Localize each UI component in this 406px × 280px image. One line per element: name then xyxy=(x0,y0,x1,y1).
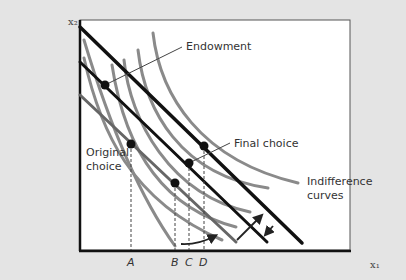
original-choice-label-line2: choice xyxy=(86,160,122,173)
indifference-label-line1: Indifference xyxy=(307,175,372,188)
point-d xyxy=(200,142,209,151)
final-choice-point xyxy=(185,159,194,168)
endowment-point xyxy=(101,81,110,90)
tick-a: A xyxy=(127,256,135,269)
indifference-curve-diagram: x₂ x₁ Endowment Final choice Original ch… xyxy=(0,0,406,280)
x-axis-label: x₁ xyxy=(370,258,380,271)
original-choice-label-line1: Original xyxy=(86,146,129,159)
y-axis-label: x₂ xyxy=(68,15,78,28)
indifference-label-line2: curves xyxy=(307,189,344,202)
tick-b: B xyxy=(171,256,179,269)
tick-c: C xyxy=(185,256,193,269)
final-choice-label: Final choice xyxy=(234,137,298,150)
point-b xyxy=(171,179,180,188)
endowment-label: Endowment xyxy=(186,40,251,53)
tick-d: D xyxy=(199,256,207,269)
